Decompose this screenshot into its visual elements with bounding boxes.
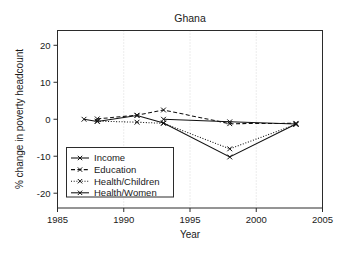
x-tick-label: 2000	[246, 214, 267, 225]
legend-label: Health/Women	[94, 187, 157, 198]
y-tick-label: 10	[40, 77, 51, 88]
y-tick-label: -20	[37, 188, 51, 199]
chart-title: Ghana	[174, 12, 206, 24]
series-health-women	[161, 117, 298, 127]
legend-label: Income	[94, 152, 125, 163]
x-axis-ticks: 19851990199520002005	[47, 208, 333, 225]
x-axis-title: Year	[180, 229, 201, 240]
screenshot-root: Ghana 19851990199520002005 20100-10-20 Y…	[0, 0, 351, 256]
x-tick-label: 1990	[113, 214, 134, 225]
chart-canvas: Ghana 19851990199520002005 20100-10-20 Y…	[0, 0, 351, 256]
x-tick-label: 2005	[312, 214, 333, 225]
y-axis-ticks: 20100-10-20	[37, 40, 58, 199]
y-tick-label: 20	[40, 40, 51, 51]
line-chart-figure: Ghana 19851990199520002005 20100-10-20 Y…	[0, 0, 351, 256]
x-tick-label: 1985	[47, 214, 68, 225]
x-tick-label: 1995	[179, 214, 200, 225]
y-tick-label: 0	[45, 114, 50, 125]
series-line	[97, 121, 296, 149]
y-axis-title: % change in poverty headcount	[14, 49, 25, 189]
y-tick-label: -10	[37, 151, 51, 162]
chart-legend: IncomeEducationHealth/ChildrenHealth/Wom…	[67, 148, 174, 199]
legend-label: Health/Children	[94, 176, 159, 187]
legend-label: Education	[94, 164, 136, 175]
